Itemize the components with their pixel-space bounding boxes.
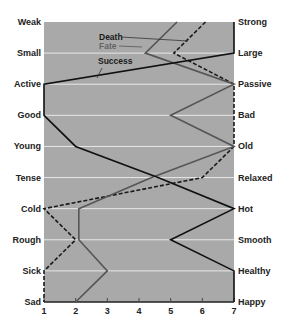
right-label: Bad: [238, 110, 255, 120]
right-label: Relaxed: [238, 173, 273, 183]
right-label: Smooth: [238, 235, 272, 245]
right-label: Strong: [238, 17, 267, 27]
left-label: Tense: [16, 173, 41, 183]
legend-success: Success: [98, 56, 133, 66]
x-tick-label: 2: [73, 306, 78, 316]
left-labels: WeakSmallActiveGoodYoungTenseColdRoughSi…: [13, 17, 42, 307]
right-label: Healthy: [238, 266, 271, 276]
left-label: Sad: [24, 297, 41, 307]
right-labels: StrongLargePassiveBadOldRelaxedHotSmooth…: [238, 17, 273, 307]
x-tick-label: 1: [41, 306, 46, 316]
x-tick-label: 5: [168, 306, 173, 316]
left-label: Young: [14, 141, 41, 151]
x-tick-label: 4: [136, 306, 141, 316]
right-label: Large: [238, 48, 263, 58]
plot-area: [44, 22, 234, 302]
left-label: Weak: [18, 17, 42, 27]
legend-fate: Fate: [99, 41, 117, 51]
x-tick-label: 6: [200, 306, 205, 316]
left-label: Rough: [13, 235, 42, 245]
left-label: Good: [18, 110, 42, 120]
x-tick-label: 3: [105, 306, 110, 316]
x-tick-label: 7: [231, 306, 236, 316]
right-label: Hot: [238, 204, 253, 214]
left-label: Small: [17, 48, 41, 58]
left-label: Cold: [21, 204, 41, 214]
semantic-differential-chart: 1234567 WeakSmallActiveGoodYoungTenseCol…: [0, 0, 286, 332]
right-label: Happy: [238, 297, 266, 307]
right-label: Passive: [238, 79, 272, 89]
left-label: Sick: [22, 266, 42, 276]
left-label: Active: [14, 79, 41, 89]
right-label: Old: [238, 141, 253, 151]
